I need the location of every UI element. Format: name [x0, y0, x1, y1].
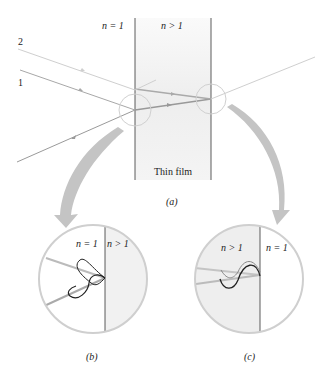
caption-c: (c): [244, 351, 256, 363]
medium-label-film: n > 1: [161, 20, 183, 31]
ray-label-1: 1: [18, 77, 23, 88]
ray-2-arrow-icon: [80, 68, 85, 71]
reflected-ray-2: [18, 49, 135, 90]
zoom-b-ray-lower: [42, 278, 105, 307]
medium-label-left: n = 1: [102, 20, 124, 31]
zoom-c-right-medium: n = 1: [266, 242, 288, 253]
ray-1-arrow-icon: [78, 88, 83, 91]
panel-a: n = 1 n > 1 2 1 Thin film (a): [17, 18, 315, 208]
transmitted-ray: [211, 57, 315, 99]
figure-canvas: n = 1 n > 1 2 1 Thin film (a) n = 1 n > …: [0, 0, 330, 385]
zoom-b-right-medium: n > 1: [107, 238, 129, 249]
panel-c: n > 1 n = 1 (c): [190, 220, 303, 363]
caption-a: (a): [166, 196, 178, 208]
curved-arrow-right-icon: [227, 104, 290, 225]
zoom-c-left-medium: n > 1: [221, 242, 243, 253]
thin-film-interference-figure: n = 1 n > 1 2 1 Thin film (a) n = 1 n > …: [0, 0, 330, 385]
reflected-ray-1: [20, 70, 135, 110]
panel-b: n = 1 n > 1 (b): [39, 220, 165, 363]
ray-label-2: 2: [18, 36, 23, 47]
zoom-b-left-medium: n = 1: [76, 238, 98, 249]
caption-b: (b): [86, 351, 98, 363]
film-label: Thin film: [154, 166, 192, 177]
curved-arrow-left-icon: [54, 127, 124, 228]
